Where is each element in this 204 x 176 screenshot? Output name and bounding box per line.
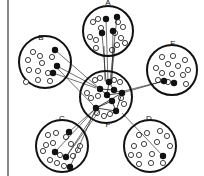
open-node xyxy=(122,40,127,45)
open-node xyxy=(49,54,54,59)
filled-node xyxy=(54,63,60,69)
open-node xyxy=(165,61,170,66)
open-node xyxy=(164,133,169,138)
open-node xyxy=(159,70,164,75)
open-node xyxy=(117,79,122,84)
open-node xyxy=(175,63,180,68)
open-node xyxy=(26,67,31,72)
open-node xyxy=(50,140,55,145)
open-node xyxy=(144,130,149,135)
cluster-boundary xyxy=(83,6,133,56)
open-node xyxy=(88,95,93,100)
cluster-a: A xyxy=(83,0,133,56)
open-node xyxy=(149,151,154,156)
open-node xyxy=(35,77,40,82)
open-node xyxy=(45,132,50,137)
open-node xyxy=(68,141,73,146)
open-node xyxy=(170,53,175,58)
open-node xyxy=(57,152,62,157)
open-node xyxy=(128,152,133,157)
open-node xyxy=(37,53,42,58)
open-node xyxy=(53,130,58,135)
open-node xyxy=(157,128,162,133)
cluster-label: D xyxy=(146,114,152,123)
filled-node xyxy=(103,16,109,22)
open-node xyxy=(92,77,97,82)
edge-a-f xyxy=(102,33,106,82)
open-node xyxy=(141,141,146,146)
filled-node xyxy=(50,70,56,76)
open-node xyxy=(136,161,141,166)
open-node xyxy=(185,67,190,72)
open-node xyxy=(87,34,92,39)
open-node xyxy=(121,101,126,106)
cluster-b: B xyxy=(19,33,71,88)
edge-c-f xyxy=(70,108,96,167)
open-node xyxy=(35,68,40,73)
open-node xyxy=(30,49,35,54)
open-node xyxy=(95,93,100,98)
cluster-label: C xyxy=(59,114,65,123)
filled-node xyxy=(63,154,69,160)
cluster-d: D xyxy=(124,114,176,172)
open-node xyxy=(118,35,123,40)
filled-node xyxy=(114,14,120,20)
filled-node xyxy=(111,87,117,93)
open-node xyxy=(180,72,185,77)
filled-node xyxy=(109,98,115,104)
filled-node xyxy=(119,90,125,96)
cluster-label: E xyxy=(170,39,175,48)
open-node xyxy=(107,111,112,116)
open-node xyxy=(93,37,98,42)
open-node xyxy=(95,16,100,21)
cluster-label: B xyxy=(38,33,43,42)
cluster-label: F xyxy=(106,120,111,129)
edge-d-f xyxy=(122,113,163,156)
open-node xyxy=(169,71,174,76)
open-node xyxy=(159,54,164,59)
filled-node xyxy=(104,92,110,98)
filled-node xyxy=(52,47,58,53)
open-node xyxy=(54,160,59,165)
open-node xyxy=(25,57,30,62)
filled-node xyxy=(171,80,177,86)
filled-node xyxy=(93,105,99,111)
open-node xyxy=(97,75,102,80)
open-node xyxy=(154,139,159,144)
open-node xyxy=(39,60,44,65)
open-node xyxy=(47,78,52,83)
open-node xyxy=(63,134,68,139)
open-node xyxy=(167,143,172,148)
open-node xyxy=(61,163,66,168)
open-node xyxy=(182,57,187,62)
open-node xyxy=(93,45,98,50)
open-node xyxy=(40,148,45,153)
filled-node xyxy=(110,28,116,34)
open-node xyxy=(120,24,125,29)
filled-node xyxy=(99,30,105,36)
edge-a-f xyxy=(106,19,108,82)
open-node xyxy=(23,79,28,84)
cluster-label: A xyxy=(105,0,111,7)
filled-node xyxy=(97,86,103,92)
filled-node xyxy=(160,153,166,159)
open-node xyxy=(153,65,158,70)
open-node xyxy=(90,19,95,24)
filled-node xyxy=(67,164,73,170)
edge-b-f xyxy=(57,68,96,108)
cluster-c: C xyxy=(36,114,88,172)
cluster-e: E xyxy=(147,39,197,95)
filled-node xyxy=(52,149,58,155)
filled-node xyxy=(66,129,72,135)
network-cluster-diagram: ABEFCD xyxy=(0,0,204,176)
open-node xyxy=(136,132,141,137)
filled-node xyxy=(161,78,167,84)
open-node xyxy=(136,152,141,157)
filled-nodes xyxy=(50,14,177,170)
open-node xyxy=(47,157,52,162)
open-node xyxy=(148,160,153,165)
open-node xyxy=(84,90,89,95)
edge-a-f xyxy=(104,46,105,81)
filled-node xyxy=(106,79,112,85)
open-node xyxy=(160,160,165,165)
